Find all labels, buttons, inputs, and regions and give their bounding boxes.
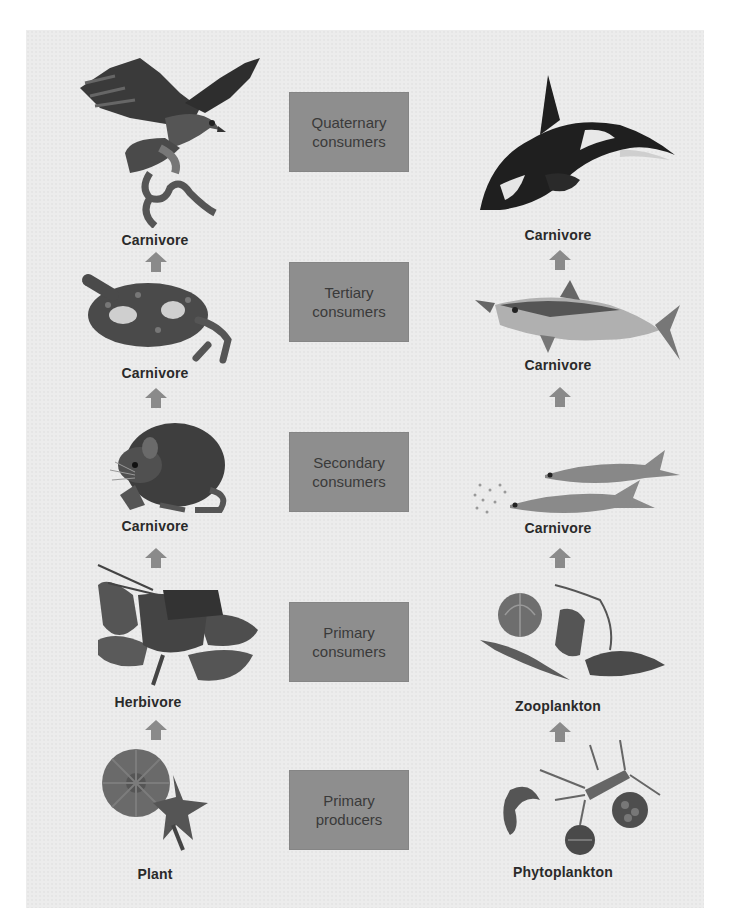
level-label: Primary producers bbox=[316, 791, 383, 829]
organism-label-hawk: Carnivore bbox=[75, 232, 235, 248]
arrow-up-icon bbox=[145, 388, 167, 408]
level-label: Quaternary consumers bbox=[311, 113, 386, 151]
arrow-up-icon bbox=[549, 250, 571, 270]
killer-whale-icon bbox=[470, 60, 680, 220]
hawk-icon bbox=[70, 48, 270, 228]
organism-label-grasshopper: Herbivore bbox=[68, 694, 228, 710]
organism-label-snake: Carnivore bbox=[75, 365, 235, 381]
organism-label-herring: Carnivore bbox=[478, 520, 638, 536]
organism-label-killer-whale: Carnivore bbox=[478, 227, 638, 243]
herring-icon bbox=[465, 430, 685, 520]
level-box-primary-consumers: Primary consumers bbox=[289, 602, 409, 682]
organism-label-tuna: Carnivore bbox=[478, 357, 638, 373]
grasshopper-icon bbox=[88, 555, 263, 690]
organism-label-zooplankton: Zooplankton bbox=[478, 698, 638, 714]
organism-label-plant: Plant bbox=[75, 866, 235, 882]
organism-label-phytoplankton: Phytoplankton bbox=[483, 864, 643, 880]
arrow-up-icon bbox=[549, 387, 571, 407]
zooplankton-icon bbox=[475, 575, 675, 685]
snake-icon bbox=[78, 270, 238, 370]
arrow-up-icon bbox=[145, 252, 167, 272]
level-label: Secondary consumers bbox=[312, 453, 385, 491]
arrow-up-icon bbox=[145, 720, 167, 740]
phytoplankton-icon bbox=[480, 740, 670, 860]
level-box-primary-producers: Primary producers bbox=[289, 770, 409, 850]
arrow-up-icon bbox=[549, 722, 571, 742]
level-label: Tertiary consumers bbox=[312, 283, 385, 321]
level-box-quaternary-consumers: Quaternary consumers bbox=[289, 92, 409, 172]
tuna-icon bbox=[470, 275, 685, 370]
mouse-icon bbox=[100, 410, 240, 520]
organism-label-mouse: Carnivore bbox=[75, 518, 235, 534]
plant-icon bbox=[98, 745, 223, 855]
level-box-tertiary-consumers: Tertiary consumers bbox=[289, 262, 409, 342]
level-box-secondary-consumers: Secondary consumers bbox=[289, 432, 409, 512]
level-label: Primary consumers bbox=[312, 623, 385, 661]
arrow-up-icon bbox=[549, 548, 571, 568]
